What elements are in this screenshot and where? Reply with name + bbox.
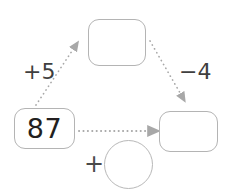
operator-plus-sign-label: + [84, 152, 104, 176]
diagram-canvas: 87 +5 −4 + [0, 0, 231, 189]
operator-add-five-label: +5 [23, 61, 55, 83]
start-value-box[interactable]: 87 [14, 108, 75, 149]
operator-subtract-four-label: −4 [179, 61, 211, 83]
operand-circle[interactable] [104, 140, 153, 189]
start-value-text: 87 [27, 115, 62, 142]
result-value-box[interactable] [159, 111, 218, 152]
intermediate-value-box[interactable] [88, 19, 146, 66]
